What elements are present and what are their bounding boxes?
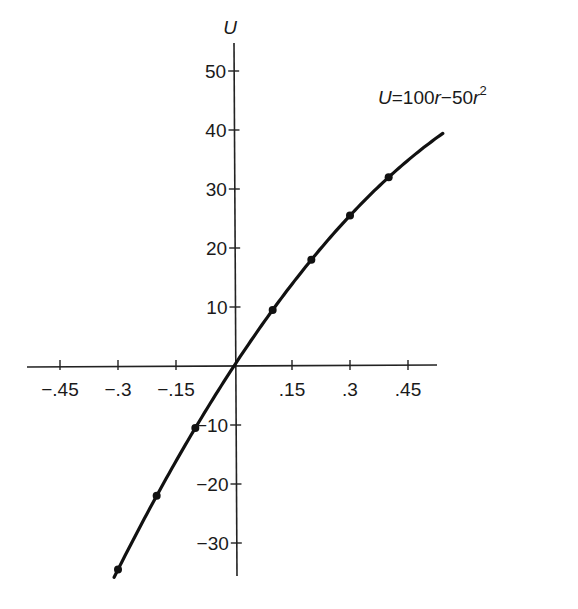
data-point [307,256,315,264]
x-tick-label: .15 [279,379,305,400]
function-curve [114,133,443,577]
x-tick-label: .45 [395,379,421,400]
y-tick-label: −20 [196,474,228,495]
x-tick-label: .3 [342,379,358,400]
equation-part: −50 [441,87,473,108]
data-point [346,212,354,220]
equation-label: U=100r−50r2 [378,83,487,108]
y-axis-line [234,43,237,576]
data-point [269,306,277,314]
labels: −.45−.3−.15.15.3.455040302010−10−20−30UU… [41,17,486,554]
x-tick-label: −.3 [105,379,132,400]
y-tick-label: 40 [205,120,226,141]
data-curve [114,133,443,577]
chart: −.45−.3−.15.15.3.455040302010−10−20−30UU… [0,0,578,609]
axes [27,43,437,576]
y-axis-title: U [223,17,237,38]
y-tick-label: 30 [206,179,227,200]
data-point [153,492,161,500]
data-points [114,173,393,573]
x-tick-label: −.15 [157,379,195,400]
data-point [385,173,393,181]
equation-part: U [378,87,392,108]
x-tick-label: −.45 [41,379,79,400]
equation-part: 2 [479,83,486,98]
equation-part: =100 [392,87,435,108]
y-tick-label: 50 [205,61,226,82]
data-point [114,566,122,574]
y-tick-label: −10 [196,415,228,436]
y-tick-label: 20 [206,238,227,259]
y-tick-label: −30 [197,533,229,554]
y-tick-label: 10 [206,297,227,318]
